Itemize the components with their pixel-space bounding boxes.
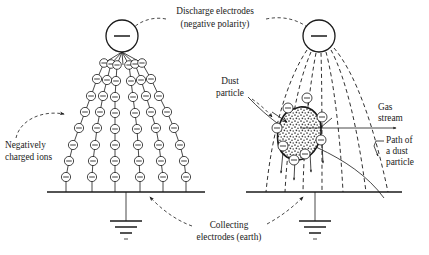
ion [146, 107, 155, 116]
ion [138, 59, 147, 68]
ion [278, 141, 288, 151]
discharge-electrode-right [303, 20, 335, 52]
ion [134, 156, 143, 165]
ion [110, 140, 119, 149]
ground-symbol-left [110, 192, 142, 239]
ion [61, 172, 70, 181]
ion [317, 112, 327, 122]
ion [92, 74, 101, 83]
ion [300, 149, 310, 159]
dust-particle-label-line2: particle [216, 88, 244, 98]
collecting-electrodes-line2: electrodes (earth) [197, 232, 262, 243]
ion [162, 107, 171, 116]
discharge-electrodes-label-line1: Discharge electrodes [176, 6, 254, 16]
discharge-leader-right [266, 18, 310, 29]
dust-path-label-line1: Path of [386, 135, 414, 145]
ion [151, 123, 160, 132]
ion [302, 93, 312, 103]
collecting-leader-right [267, 197, 303, 224]
gas-stream-label: Gas stream [378, 102, 404, 123]
ion [68, 140, 77, 149]
ion [283, 103, 293, 113]
ion [80, 107, 89, 116]
field-line-5 [326, 52, 343, 192]
dust-path-leader-bracket [374, 141, 384, 146]
ion [156, 156, 165, 165]
ion [181, 172, 190, 181]
negatively-charged-ions-line2: charged ions [5, 152, 52, 162]
ion [175, 140, 184, 149]
electrostatic-precipitator-figure: Discharge electrodes (negative polarity) [0, 0, 429, 255]
ion [154, 91, 163, 100]
ground-symbol-right [299, 192, 331, 239]
ion [128, 92, 137, 101]
ion-chain-1 [61, 59, 108, 192]
ion [126, 76, 135, 85]
ion [146, 74, 155, 83]
ion [169, 123, 178, 132]
negatively-charged-ions-label: Negatively charged ions [5, 140, 52, 162]
ion [110, 108, 119, 117]
dust-particle-leader [252, 99, 272, 117]
ion [102, 75, 111, 84]
ion [272, 123, 282, 133]
ion [136, 75, 145, 84]
ion [88, 156, 97, 165]
ion [113, 61, 122, 70]
diagram-canvas: Discharge electrodes (negative polarity) [0, 0, 429, 255]
field-line-6 [331, 50, 366, 192]
ion [133, 140, 142, 149]
ion [132, 124, 141, 133]
gas-stream-label-line1: Gas [378, 102, 393, 112]
ion [130, 108, 139, 117]
ion [98, 91, 107, 100]
collecting-electrodes-label: Collecting electrodes (earth) [197, 220, 262, 243]
ion [92, 123, 101, 132]
ion [90, 140, 99, 149]
ion-chain-3 [110, 61, 121, 192]
ion [179, 156, 188, 165]
gas-stream-label-line2: stream [378, 113, 404, 123]
ion [74, 123, 83, 132]
discharge-electrode-left [106, 20, 138, 52]
dust-particle-label: Dust particle [216, 76, 244, 98]
dust-particle-label-line1: Dust [221, 76, 239, 86]
negatively-charged-ions-leader [16, 113, 64, 138]
ion [316, 135, 326, 145]
negatively-charged-ions-line1: Negatively [5, 140, 46, 150]
ion [141, 91, 150, 100]
right-panel [246, 20, 402, 239]
collecting-electrodes-line1: Collecting [210, 220, 249, 230]
left-panel [47, 20, 205, 239]
ion [110, 172, 119, 181]
ion [111, 76, 120, 85]
ion [95, 107, 104, 116]
ion [110, 92, 119, 101]
ion [110, 124, 119, 133]
ion [87, 172, 96, 181]
discharge-electrodes-label: Discharge electrodes (negative polarity) [176, 6, 254, 30]
dust-path-label-line2: a dust [386, 146, 408, 156]
ion [158, 172, 167, 181]
discharge-electrodes-label-line2: (negative polarity) [181, 19, 250, 30]
ion [135, 172, 144, 181]
ion [86, 91, 95, 100]
collecting-leader-left [150, 197, 192, 226]
dust-particle-path-label: Path of a dust particle [386, 135, 414, 167]
dust-particle-blob [278, 107, 322, 160]
ion [64, 156, 73, 165]
ion [154, 140, 163, 149]
ion [289, 155, 299, 165]
dust-path-label-line3: particle [386, 157, 414, 167]
ion [110, 156, 119, 165]
dust-path-leader-arrow [374, 146, 378, 156]
